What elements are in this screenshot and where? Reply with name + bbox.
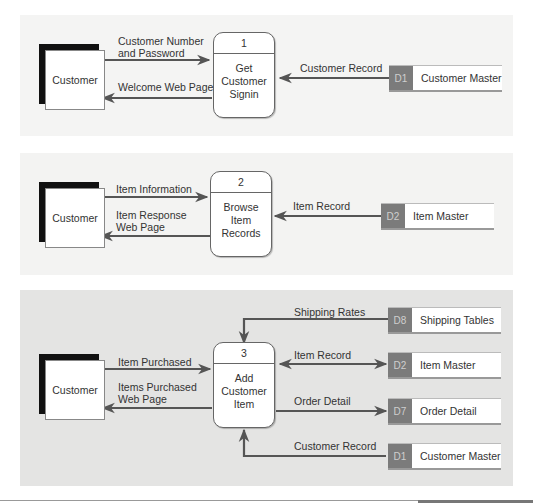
flow-label-order-detail: Order Detail — [294, 395, 351, 407]
store-name: Item Master — [405, 204, 468, 228]
process-add-customer-item: 3 Add Customer Item — [213, 342, 275, 428]
store-name: Item Master — [412, 353, 475, 377]
process-label: Add Customer Item — [214, 364, 274, 411]
data-store-d7-order-detail: D7 Order Detail — [388, 398, 501, 425]
store-name: Customer Master — [413, 66, 502, 90]
store-id: D1 — [389, 66, 413, 90]
process-get-customer-signin: 1 Get Customer Signin — [213, 32, 275, 118]
entity-label: Customer — [45, 50, 105, 110]
flow-label-items-purchased-web-page: Items Purchased Web Page — [118, 381, 197, 405]
external-entity-customer: Customer — [45, 360, 105, 420]
flow-label-item-purchased: Item Purchased — [118, 356, 192, 368]
flow-label-item-information: Item Information — [116, 183, 192, 195]
flow-label-item-record: Item Record — [293, 200, 350, 212]
process-label: Browse Item Records — [211, 193, 271, 240]
data-store-d1-customer-master: D1 Customer Master — [388, 443, 501, 470]
flow-label-customer-record: Customer Record — [294, 440, 376, 452]
external-entity-customer: Customer — [45, 50, 105, 110]
data-store-d1-customer-master: D1 Customer Master — [389, 65, 502, 92]
entity-label: Customer — [45, 360, 105, 420]
external-entity-customer: Customer — [45, 188, 105, 248]
store-id: D8 — [388, 308, 412, 332]
flow-label-shipping-rates: Shipping Rates — [294, 306, 365, 318]
entity-label: Customer — [45, 188, 105, 248]
store-name: Customer Master — [412, 444, 501, 468]
store-id: D2 — [381, 204, 405, 228]
process-number: 2 — [211, 172, 271, 193]
store-id: D2 — [388, 353, 412, 377]
store-id: D1 — [388, 444, 412, 468]
store-name: Shipping Tables — [412, 308, 494, 332]
data-store-d2-item-master: D2 Item Master — [388, 352, 501, 379]
flow-label-customer-number-password: Customer Number and Password — [118, 35, 204, 59]
flow-label-welcome-web-page: Welcome Web Page — [118, 81, 213, 93]
flow-label-item-record: Item Record — [294, 349, 351, 361]
data-store-d2-item-master: D2 Item Master — [381, 203, 494, 230]
process-number: 3 — [214, 343, 274, 364]
flow-label-customer-record: Customer Record — [300, 62, 382, 74]
flow-label-item-response-web-page: Item Response Web Page — [116, 209, 187, 233]
store-id: D7 — [388, 399, 412, 423]
data-store-d8-shipping-tables: D8 Shipping Tables — [388, 307, 501, 334]
process-label: Get Customer Signin — [214, 54, 274, 101]
process-browse-item-records: 2 Browse Item Records — [210, 171, 272, 257]
process-number: 1 — [214, 33, 274, 54]
store-name: Order Detail — [412, 399, 477, 423]
